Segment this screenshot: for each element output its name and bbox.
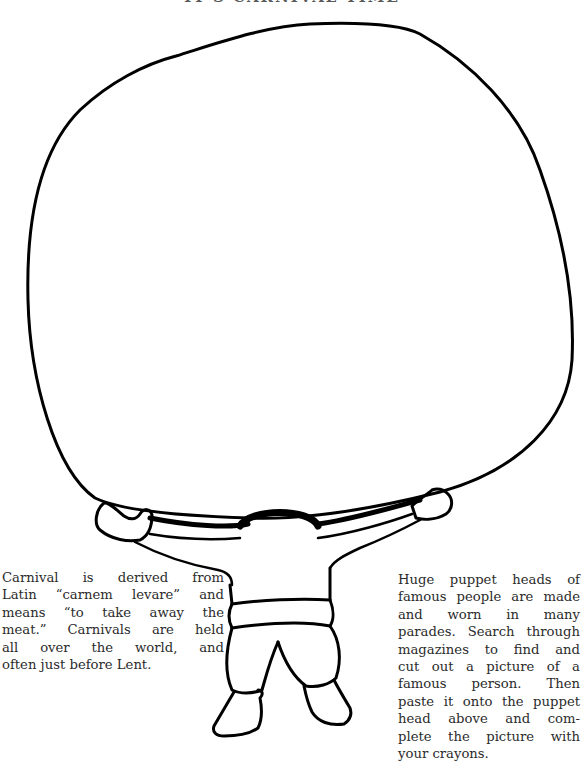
puppet-instructions-text: Huge puppet heads of famous people are m… [398,571,580,762]
trousers-right-leg [278,626,339,687]
left-shoe [213,690,262,736]
text-line: often just before Lent. [2,656,224,673]
waistband-top [232,599,330,604]
text-line: famous people are made [398,588,580,605]
text-line: your crayons. [398,745,580,762]
text-line: plete the picture with [398,728,580,745]
text-line: parades. Search through [398,623,580,640]
text-line: meat.” Carnivals are held [2,621,224,638]
text-line: and worn in many [398,606,580,623]
text-line: Huge puppet heads of [398,571,580,588]
left-hand [96,503,152,541]
text-line: head above and com- [398,710,580,727]
text-line: magazines to find and [398,641,580,658]
right-arm-upper [318,514,412,538]
right-arm-lower [330,520,420,568]
text-line: Latin “carnem levare” and [2,586,224,603]
text-line: famous person. Then [398,675,580,692]
text-line: cut out a picture of a [398,658,580,675]
left-arm-upper [150,534,240,539]
text-line: means “to take away the [2,604,224,621]
puppet-head-outline [28,23,573,518]
trousers-left-leg [227,628,278,693]
carnival-origin-text: Carnival is derived from Latin “carnem l… [2,569,224,673]
text-line: paste it onto the puppet [398,693,580,710]
text-line: Carnival is derived from [2,569,224,586]
waistband-bottom [232,623,330,628]
text-line: all over the world, and [2,639,224,656]
arm-bar-left [150,518,248,526]
